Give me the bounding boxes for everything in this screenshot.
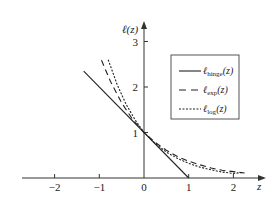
x-axis-title: z [256,180,262,192]
x-tick-label: −2 [49,181,61,193]
y-tick-label: 3 [133,36,139,48]
y-tick-label: 2 [133,81,139,93]
legend: ℓhinge(z)ℓexp(z)ℓlog(z) [171,55,239,119]
x-tick-label: −1 [93,181,105,193]
loss-function-chart: −2−1012123zℓ(z) ℓhinge(z)ℓexp(z)ℓlog(z) [0,0,279,204]
x-tick-label: 2 [231,181,237,193]
y-axis-title: ℓ(z) [122,23,139,36]
x-tick-label: 1 [186,181,192,193]
y-axis-arrow [141,21,147,29]
y-tick-label: 1 [133,127,139,139]
x-tick-label: 0 [141,181,147,193]
